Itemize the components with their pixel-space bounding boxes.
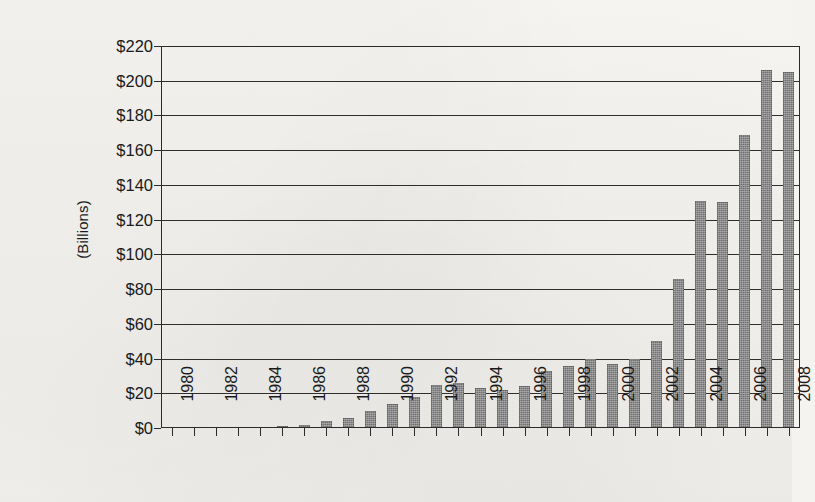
x-axis-tick-label: 2000 [621,366,637,438]
x-axis-tick-label: 2008 [797,366,813,438]
x-axis-tick-label: 1990 [400,366,416,438]
x-axis-tick-label: 1986 [312,366,328,438]
x-axis-tick-label: 2004 [709,366,725,438]
x-axis-tick-label: 2002 [665,366,681,438]
x-axis-tick-label: 1984 [268,366,284,438]
x-axis-tick-label: 1994 [489,366,505,438]
x-axis-tick-label: 1988 [356,366,372,438]
bar-chart-figure: (Billions) $0$20$40$60$80$100$120$140$16… [40,16,752,486]
x-axis-tick-label-group: 1980198219841986198819901992199419961998… [40,16,815,502]
x-axis-tick-label: 2006 [753,366,769,438]
x-axis-tick-label: 1998 [577,366,593,438]
x-axis-tick-label: 1980 [180,366,196,438]
x-axis-tick-label: 1982 [224,366,240,438]
x-axis-tick-label: 1992 [444,366,460,438]
x-axis-tick-label: 1996 [533,366,549,438]
